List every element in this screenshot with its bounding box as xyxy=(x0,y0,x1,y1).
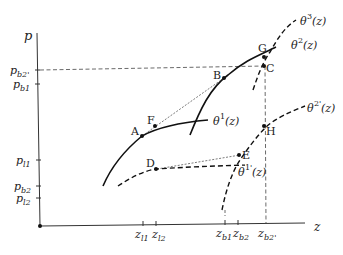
svg-text:l1: l1 xyxy=(23,160,31,169)
label-theta3: θ 3 (z) xyxy=(300,12,326,28)
svg-text:p: p xyxy=(16,192,23,205)
economics-diagram: p z p b2' p b1 p l1 p b2 p l2 z l1 z l2 … xyxy=(0,0,343,255)
xlabel-zl2: z l2 xyxy=(151,228,166,243)
svg-text:θ: θ xyxy=(307,102,314,115)
point-G xyxy=(262,55,266,59)
svg-text:θ: θ xyxy=(300,15,307,28)
svg-text:b2: b2 xyxy=(239,233,249,242)
svg-text:z: z xyxy=(232,227,239,240)
ylabel-pl1: p l1 xyxy=(16,154,31,169)
svg-text:p: p xyxy=(10,64,17,77)
label-G: G xyxy=(258,42,267,55)
point-A xyxy=(140,134,144,138)
xlabel-zl1: z l1 xyxy=(134,228,149,243)
svg-text:p: p xyxy=(13,78,20,91)
label-theta2: θ 2 (z) xyxy=(291,36,317,52)
svg-text:z: z xyxy=(134,228,141,241)
label-theta1: θ 1 (z) xyxy=(213,112,239,128)
svg-text:l2: l2 xyxy=(23,198,31,207)
svg-text:b2': b2' xyxy=(264,233,276,242)
y-axis-label: p xyxy=(24,28,33,43)
svg-text:p: p xyxy=(16,154,23,167)
svg-text:θ: θ xyxy=(213,115,220,128)
label-H: H xyxy=(266,125,276,138)
svg-text:z: z xyxy=(257,227,264,240)
svg-text:(z): (z) xyxy=(252,166,266,179)
guide-zb2p xyxy=(265,66,266,224)
label-D: D xyxy=(146,157,155,170)
svg-text:l2: l2 xyxy=(158,234,166,243)
xlabel-zb2p: z b2' xyxy=(257,227,276,242)
point-B xyxy=(222,76,226,80)
ylabel-pb2p: p b2' xyxy=(10,64,29,79)
svg-text:z: z xyxy=(215,227,222,240)
x-axis-label: z xyxy=(313,220,321,234)
label-B: B xyxy=(213,69,221,82)
svg-text:θ: θ xyxy=(238,166,245,179)
svg-text:(z): (z) xyxy=(321,102,335,115)
svg-text:θ: θ xyxy=(291,39,298,52)
label-F: F xyxy=(147,114,155,127)
xlabel-zb1: z b1 xyxy=(215,227,232,242)
label-C: C xyxy=(266,62,274,75)
svg-text:b1: b1 xyxy=(20,84,30,93)
label-theta1p: θ 1' (z) xyxy=(238,163,266,179)
guide-pb2p xyxy=(40,66,265,70)
label-theta2p: θ 2' (z) xyxy=(307,99,335,115)
curve-theta1p xyxy=(118,165,245,186)
ylabel-pb1: p b1 xyxy=(13,78,30,93)
svg-text:z: z xyxy=(151,228,158,241)
svg-text:(z): (z) xyxy=(225,115,239,128)
origin-dot xyxy=(38,224,42,228)
svg-text:b1: b1 xyxy=(222,233,232,242)
svg-text:l1: l1 xyxy=(141,234,149,243)
label-E: E xyxy=(242,149,250,162)
svg-text:(z): (z) xyxy=(312,15,326,28)
point-E xyxy=(237,153,241,157)
y-axis xyxy=(37,33,40,226)
x-axis xyxy=(40,223,305,226)
svg-text:(z): (z) xyxy=(303,39,317,52)
label-A: A xyxy=(130,125,140,138)
xlabel-zb2: z b2 xyxy=(232,227,249,242)
